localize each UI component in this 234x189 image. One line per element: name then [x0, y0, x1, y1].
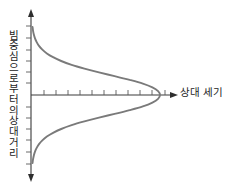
y-axis-label-char-3: 으: [9, 62, 19, 73]
y-axis-up-arrow-icon: [28, 9, 34, 17]
y-axis-ticks: [26, 26, 31, 164]
y-axis-label-char-10: 거: [9, 137, 19, 148]
y-axis-label: 빔중심으로부터의상대거리: [5, 14, 23, 174]
x-axis-ticks: [44, 90, 165, 95]
y-axis-label-char-11: 리: [9, 148, 19, 159]
x-axis-right-arrow-icon: [170, 92, 178, 98]
page-edge-artifact: [8, 180, 226, 187]
beam-profile-figure: 빔중심으로부터의상대거리 상대 세기: [0, 0, 234, 189]
x-axis-label: 상대 세기: [180, 84, 223, 99]
